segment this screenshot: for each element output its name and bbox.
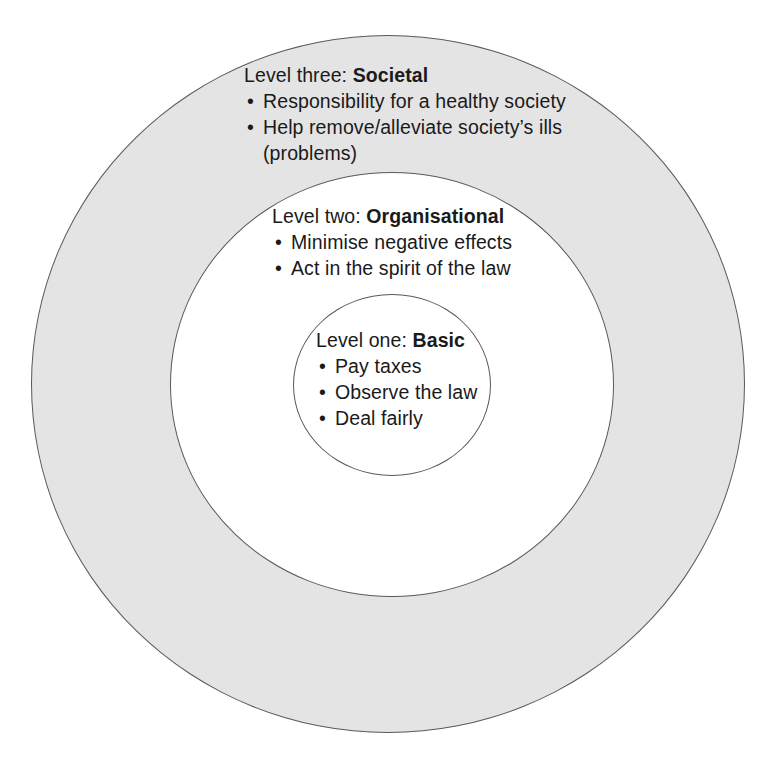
list-item: • Help remove/alleviate society’s ills: [244, 114, 566, 140]
list-item: • Observe the law: [316, 379, 477, 405]
heading-organisational-name: Organisational: [366, 205, 504, 227]
bullet-dot-icon: •: [275, 229, 282, 255]
label-group-organisational: Level two: Organisational • Minimise neg…: [272, 203, 512, 281]
heading-societal-name: Societal: [353, 64, 429, 86]
concentric-circles-diagram: Level three: Societal • Responsibility f…: [0, 0, 780, 759]
bullet-dot-icon: •: [319, 353, 326, 379]
bullet-text: Help remove/alleviate society’s ills: [263, 116, 562, 138]
list-item: • Act in the spirit of the law: [272, 255, 512, 281]
bullet-dot-icon: •: [319, 379, 326, 405]
heading-basic: Level one: Basic: [316, 327, 477, 353]
list-item: • Responsibility for a healthy society: [244, 88, 566, 114]
heading-societal: Level three: Societal: [244, 62, 566, 88]
bullet-continuation-societal: (problems): [244, 140, 566, 166]
heading-societal-prefix: Level three:: [244, 64, 347, 86]
bullet-text: Observe the law: [335, 381, 477, 403]
bullet-dot-icon: •: [247, 114, 254, 140]
label-group-basic: Level one: Basic • Pay taxes • Observe t…: [316, 327, 477, 431]
list-item: • Deal fairly: [316, 405, 477, 431]
bullet-dot-icon: •: [319, 405, 326, 431]
bullet-list-societal: • Responsibility for a healthy society •…: [244, 88, 566, 140]
bullet-text: Minimise negative effects: [291, 231, 512, 253]
bullet-dot-icon: •: [275, 255, 282, 281]
list-item: • Pay taxes: [316, 353, 477, 379]
heading-basic-prefix: Level one:: [316, 329, 407, 351]
bullet-text: Deal fairly: [335, 407, 423, 429]
bullet-list-basic: • Pay taxes • Observe the law • Deal fai…: [316, 353, 477, 431]
heading-basic-name: Basic: [413, 329, 466, 351]
bullet-text: Responsibility for a healthy society: [263, 90, 566, 112]
heading-organisational-prefix: Level two:: [272, 205, 361, 227]
bullet-dot-icon: •: [247, 88, 254, 114]
bullet-text: Act in the spirit of the law: [291, 257, 511, 279]
list-item: • Minimise negative effects: [272, 229, 512, 255]
bullet-list-organisational: • Minimise negative effects • Act in the…: [272, 229, 512, 281]
bullet-text: Pay taxes: [335, 355, 422, 377]
label-group-societal: Level three: Societal • Responsibility f…: [244, 62, 566, 166]
heading-organisational: Level two: Organisational: [272, 203, 512, 229]
